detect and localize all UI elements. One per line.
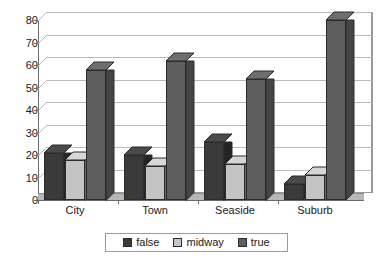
bars-layer (38, 12, 372, 201)
plot-right-wall (372, 12, 373, 193)
x-tick-label-seaside: Seaside (194, 204, 276, 216)
y-tick-mark-30 (34, 133, 38, 134)
x-tick-label-town: Town (114, 204, 196, 216)
bar-face (284, 184, 304, 200)
plot-area (38, 12, 372, 200)
x-axis-tick-labels: CityTownSeasideSuburb (38, 204, 372, 220)
legend-label-midway: midway (186, 237, 223, 248)
bar-midway-city (65, 160, 85, 201)
x-tick-mark-0 (38, 200, 39, 204)
legend-swatch-midway-icon (173, 238, 182, 247)
bar-true-suburb (326, 20, 346, 200)
y-tick-mark-10 (34, 178, 38, 179)
y-tick-mark-80 (34, 20, 38, 21)
bar-chart: 01020304050607080 CityTownSeasideSuburb … (0, 0, 392, 266)
x-tick-mark-2 (198, 200, 199, 204)
bar-face (326, 20, 346, 200)
legend-swatch-true-icon (238, 238, 247, 247)
bar-side-facet (346, 20, 354, 200)
bar-true-seaside (246, 79, 266, 201)
bar-top-facet (145, 158, 165, 166)
bar-face (124, 155, 144, 200)
x-tick-label-city: City (34, 204, 116, 216)
bar-face (44, 153, 64, 200)
bar-false-seaside (204, 142, 224, 201)
bar-true-city (86, 70, 106, 201)
legend-item-false: false (123, 237, 159, 248)
bar-top-facet (246, 71, 266, 79)
bar-face (145, 166, 165, 200)
bar-face (204, 142, 224, 201)
bar-side-facet (266, 79, 274, 201)
bar-top-facet (204, 134, 224, 142)
bar-top-facet (166, 53, 186, 61)
x-tick-label-suburb: Suburb (274, 204, 356, 216)
bar-top-facet (124, 147, 144, 155)
bar-side-facet (186, 61, 194, 201)
bar-face (246, 79, 266, 201)
y-tick-mark-60 (34, 65, 38, 66)
x-tick-mark-3 (278, 200, 279, 204)
y-tick-mark-70 (34, 43, 38, 44)
chart-legend: false midway true (105, 233, 288, 252)
bar-face (65, 160, 85, 201)
bar-midway-town (145, 166, 165, 200)
legend-item-true: true (238, 237, 270, 248)
bar-midway-seaside (225, 164, 245, 200)
x-tick-mark-1 (118, 200, 119, 204)
bar-face (86, 70, 106, 201)
bar-face (305, 175, 325, 200)
bar-face (225, 164, 245, 200)
bar-false-suburb (284, 184, 304, 200)
legend-item-midway: midway (173, 237, 223, 248)
bar-true-town (166, 61, 186, 201)
bar-top-facet (305, 167, 325, 175)
y-tick-mark-40 (34, 110, 38, 111)
bar-top-facet (65, 152, 85, 160)
bar-false-city (44, 153, 64, 200)
bar-side-facet (106, 70, 114, 201)
bar-top-facet (225, 156, 245, 164)
legend-label-true: true (251, 237, 270, 248)
bar-top-facet (44, 145, 64, 153)
bar-face (166, 61, 186, 201)
legend-label-false: false (136, 237, 159, 248)
bar-top-facet (326, 12, 346, 20)
bar-false-town (124, 155, 144, 200)
y-tick-mark-20 (34, 155, 38, 156)
bar-top-facet (284, 176, 304, 184)
bar-midway-suburb (305, 175, 325, 200)
legend-swatch-false-icon (123, 238, 132, 247)
bar-top-facet (86, 62, 106, 70)
y-tick-mark-50 (34, 88, 38, 89)
